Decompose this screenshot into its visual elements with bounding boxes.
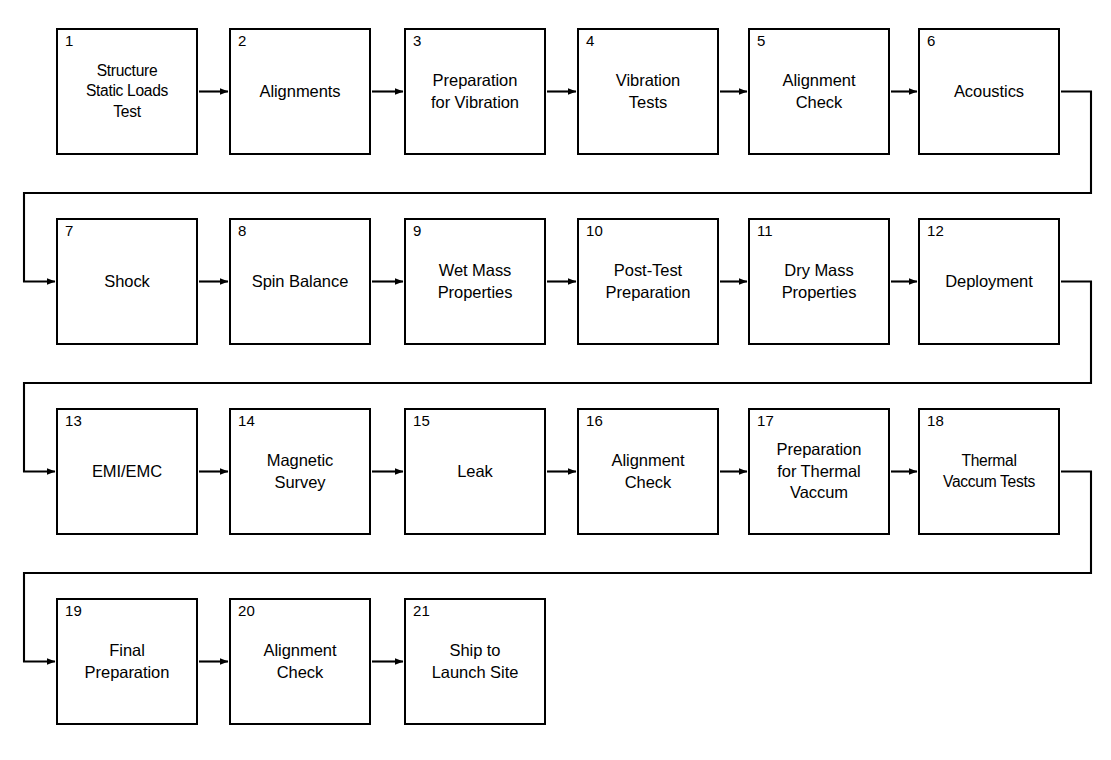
process-node-2[interactable]: 2Alignments xyxy=(229,28,371,155)
node-label: Alignment Check xyxy=(781,70,858,113)
process-node-1[interactable]: 1Structure Static Loads Test xyxy=(56,28,198,155)
process-node-18[interactable]: 18Thermal Vaccum Tests xyxy=(918,408,1060,535)
node-number: 19 xyxy=(65,603,82,618)
node-label: Deployment xyxy=(943,271,1035,292)
process-node-8[interactable]: 8Spin Balance xyxy=(229,218,371,345)
node-label: Preparation for Thermal Vaccum xyxy=(775,439,864,503)
node-label: Wet Mass Properties xyxy=(436,260,515,303)
node-number: 14 xyxy=(238,413,255,428)
node-label: Alignment Check xyxy=(262,640,339,683)
node-label: Post-Test Preparation xyxy=(604,260,693,303)
node-number: 20 xyxy=(238,603,255,618)
process-node-12[interactable]: 12Deployment xyxy=(918,218,1060,345)
process-node-11[interactable]: 11Dry Mass Properties xyxy=(748,218,890,345)
node-number: 8 xyxy=(238,223,246,238)
node-label: Structure Static Loads Test xyxy=(84,61,170,122)
process-node-3[interactable]: 3Preparation for Vibration xyxy=(404,28,546,155)
process-node-14[interactable]: 14Magnetic Survey xyxy=(229,408,371,535)
node-number: 15 xyxy=(413,413,430,428)
node-number: 17 xyxy=(757,413,774,428)
node-number: 1 xyxy=(65,33,73,48)
node-label: Preparation for Vibration xyxy=(429,70,521,113)
node-number: 2 xyxy=(238,33,246,48)
process-node-21[interactable]: 21Ship to Launch Site xyxy=(404,598,546,725)
node-number: 7 xyxy=(65,223,73,238)
node-label: Dry Mass Properties xyxy=(780,260,859,303)
node-label: Leak xyxy=(455,461,495,482)
process-node-15[interactable]: 15Leak xyxy=(404,408,546,535)
node-label: Acoustics xyxy=(952,81,1026,102)
node-label: Alignment Check xyxy=(610,450,687,493)
node-number: 5 xyxy=(757,33,765,48)
node-label: Alignments xyxy=(257,81,342,102)
node-number: 3 xyxy=(413,33,421,48)
process-node-17[interactable]: 17Preparation for Thermal Vaccum xyxy=(748,408,890,535)
node-label: Magnetic Survey xyxy=(265,450,336,493)
node-label: Spin Balance xyxy=(250,271,351,292)
process-node-9[interactable]: 9Wet Mass Properties xyxy=(404,218,546,345)
node-label: Final Preparation xyxy=(83,640,172,683)
node-label: EMI/EMC xyxy=(90,461,164,482)
node-label: Ship to Launch Site xyxy=(430,640,521,683)
process-node-5[interactable]: 5Alignment Check xyxy=(748,28,890,155)
node-label: Shock xyxy=(102,271,152,292)
node-number: 18 xyxy=(927,413,944,428)
node-number: 6 xyxy=(927,33,935,48)
process-node-4[interactable]: 4Vibration Tests xyxy=(577,28,719,155)
node-number: 11 xyxy=(757,223,773,238)
node-number: 4 xyxy=(586,33,594,48)
node-number: 13 xyxy=(65,413,82,428)
node-number: 21 xyxy=(413,603,430,618)
process-node-7[interactable]: 7Shock xyxy=(56,218,198,345)
process-node-16[interactable]: 16Alignment Check xyxy=(577,408,719,535)
process-node-13[interactable]: 13EMI/EMC xyxy=(56,408,198,535)
process-node-6[interactable]: 6Acoustics xyxy=(918,28,1060,155)
node-label: Thermal Vaccum Tests xyxy=(941,451,1037,492)
node-number: 10 xyxy=(586,223,603,238)
diagram-canvas: 1Structure Static Loads Test2Alignments3… xyxy=(0,0,1111,760)
node-number: 12 xyxy=(927,223,944,238)
process-node-19[interactable]: 19Final Preparation xyxy=(56,598,198,725)
node-label: Vibration Tests xyxy=(614,70,682,113)
process-node-10[interactable]: 10Post-Test Preparation xyxy=(577,218,719,345)
process-node-20[interactable]: 20Alignment Check xyxy=(229,598,371,725)
node-number: 16 xyxy=(586,413,603,428)
node-number: 9 xyxy=(413,223,421,238)
